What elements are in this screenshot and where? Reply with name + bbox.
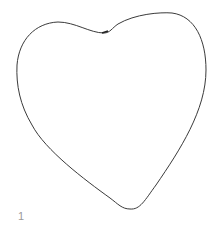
heart-outline: [17, 13, 206, 209]
figure-number-label: 1: [18, 211, 24, 222]
heart-outline-drawing: [0, 0, 216, 225]
